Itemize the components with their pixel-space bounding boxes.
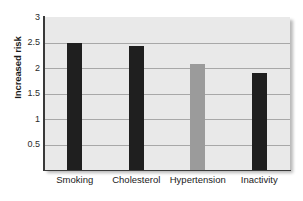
- plot-area: [44, 17, 290, 170]
- x-axis-tick-label: Smoking: [56, 174, 93, 185]
- y-axis-tick-label: 0.5: [14, 140, 40, 149]
- bar-chart-figure: Increased risk 32.521.510.5 SmokingChole…: [0, 0, 303, 201]
- y-axis-line: [43, 16, 45, 171]
- x-axis-tick-label: Cholesterol: [112, 174, 160, 185]
- y-axis-tick-label: 2: [14, 64, 40, 73]
- y-axis-tick-label: 1: [14, 115, 40, 124]
- x-axis-tick-label: Inactivity: [241, 174, 278, 185]
- y-axis-tick-label: 2.5: [14, 38, 40, 47]
- bar-smoking: [67, 43, 82, 171]
- y-axis-tick-label: 3: [14, 13, 40, 22]
- bar-hypertension: [190, 64, 205, 170]
- x-axis-tick-labels: SmokingCholesterolHypertensionInactivity: [44, 174, 290, 194]
- bar-cholesterol: [129, 46, 144, 170]
- y-axis-tick-label: 1.5: [14, 89, 40, 98]
- x-axis-line: [43, 170, 291, 172]
- bar-inactivity: [252, 73, 267, 170]
- y-axis-tick-labels: 32.521.510.5: [12, 0, 40, 201]
- x-axis-tick-label: Hypertension: [170, 174, 226, 185]
